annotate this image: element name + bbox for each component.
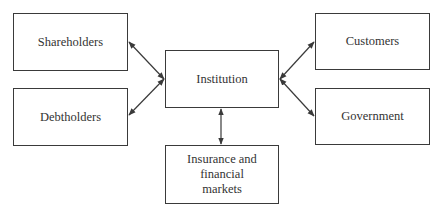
node-customers: Customers: [315, 13, 430, 70]
edge-customers-institution: [280, 42, 314, 79]
node-label-line1: Insurance and: [187, 152, 257, 167]
edge-debtholders-institution: [129, 79, 164, 115]
node-debtholders: Debtholders: [13, 88, 128, 146]
node-label: Institution: [196, 72, 247, 87]
node-label: Shareholders: [38, 35, 103, 50]
edge-government-institution: [280, 79, 314, 116]
node-government: Government: [315, 88, 430, 145]
node-institution: Institution: [165, 50, 279, 108]
node-label: Debtholders: [40, 110, 101, 125]
node-insurance: Insurance and financial markets: [165, 145, 279, 204]
edge-shareholders-institution: [129, 42, 164, 79]
node-label: Government: [341, 109, 403, 124]
node-label-line3: markets: [202, 182, 242, 197]
node-shareholders: Shareholders: [13, 13, 128, 71]
node-label: Customers: [346, 34, 399, 49]
node-label-line2: financial: [200, 167, 244, 182]
